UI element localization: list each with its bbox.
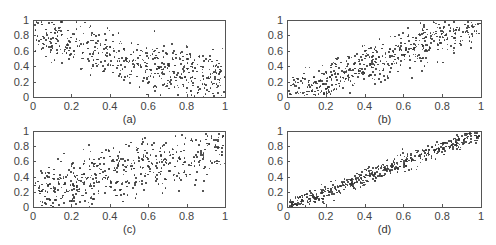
- data-point: [426, 154, 428, 156]
- data-point: [109, 46, 111, 48]
- data-point: [114, 56, 116, 58]
- data-point: [335, 76, 337, 78]
- data-point: [203, 180, 205, 182]
- data-point: [108, 168, 110, 170]
- data-point: [154, 63, 156, 65]
- data-point: [335, 84, 337, 86]
- data-point: [350, 179, 352, 181]
- data-point: [343, 189, 345, 191]
- data-point: [63, 202, 65, 204]
- data-point: [159, 161, 161, 163]
- x-tick-label: 0.8: [172, 210, 202, 222]
- data-point: [479, 23, 481, 25]
- data-point: [302, 92, 304, 94]
- data-point: [392, 50, 394, 52]
- data-point: [75, 193, 77, 195]
- data-point: [129, 60, 131, 62]
- data-point: [397, 171, 399, 173]
- data-point: [326, 72, 328, 74]
- data-point: [382, 44, 384, 46]
- data-point: [113, 50, 115, 52]
- data-point: [153, 142, 155, 144]
- data-point: [322, 198, 324, 200]
- data-point: [120, 189, 122, 191]
- data-point: [125, 144, 127, 146]
- panel-caption: (a): [110, 113, 150, 125]
- data-point: [323, 83, 325, 85]
- data-point: [41, 24, 43, 26]
- data-point: [407, 51, 409, 53]
- data-point: [217, 66, 219, 68]
- data-point: [406, 48, 408, 50]
- data-point: [131, 165, 133, 167]
- x-tick-mark: [481, 94, 482, 97]
- x-tick-mark: [326, 94, 327, 97]
- data-point: [144, 150, 146, 152]
- data-point: [45, 29, 47, 31]
- data-point: [95, 35, 97, 37]
- data-point: [295, 92, 297, 94]
- data-point: [186, 87, 188, 89]
- data-point: [70, 180, 72, 182]
- data-point: [390, 172, 392, 174]
- y-tick-label: 0.4: [3, 171, 29, 183]
- data-point: [210, 160, 212, 162]
- x-tick-mark: [148, 204, 149, 207]
- x-tick-label: 0.8: [172, 100, 202, 112]
- data-point: [168, 170, 170, 172]
- data-point: [91, 203, 93, 205]
- y-tick-label: 0.4: [3, 60, 29, 72]
- data-point: [298, 87, 300, 89]
- data-point: [147, 165, 149, 167]
- data-point: [69, 41, 71, 43]
- data-point: [116, 195, 118, 197]
- data-point: [141, 143, 143, 145]
- data-point: [78, 180, 80, 182]
- data-point: [163, 144, 165, 146]
- data-point: [470, 135, 472, 137]
- data-point: [53, 169, 55, 171]
- data-point: [427, 145, 429, 147]
- data-point: [325, 83, 327, 85]
- data-point: [69, 47, 71, 49]
- data-point: [400, 38, 402, 40]
- data-point: [220, 66, 222, 68]
- data-point: [369, 74, 371, 76]
- y-tick-mark: [33, 82, 36, 83]
- data-point: [445, 142, 447, 144]
- data-point: [307, 86, 309, 88]
- data-point: [161, 161, 163, 163]
- data-point: [191, 162, 193, 164]
- data-point: [391, 169, 393, 171]
- data-point: [172, 52, 174, 54]
- data-point: [374, 83, 376, 85]
- data-point: [129, 82, 131, 84]
- data-point: [452, 148, 454, 150]
- data-point: [448, 24, 450, 26]
- y-tick-mark: [287, 35, 290, 36]
- y-tick-label: 1: [3, 125, 29, 137]
- data-point: [104, 170, 106, 172]
- data-point: [96, 165, 98, 167]
- data-point: [52, 37, 54, 39]
- data-point: [217, 146, 219, 148]
- data-point: [93, 159, 95, 161]
- data-point: [384, 63, 386, 65]
- data-point: [163, 164, 165, 166]
- data-point: [172, 157, 174, 159]
- x-tick-mark: [481, 204, 482, 207]
- data-point: [416, 152, 418, 154]
- data-point: [102, 65, 104, 67]
- data-point: [76, 38, 78, 40]
- y-tick-label: 0.8: [257, 29, 283, 41]
- x-tick-mark: [187, 94, 188, 97]
- data-point: [46, 199, 48, 201]
- x-tick-mark: [287, 204, 288, 207]
- data-point: [195, 179, 197, 181]
- data-point: [186, 54, 188, 56]
- data-point: [90, 25, 92, 27]
- y-tick-label: 1: [257, 14, 283, 26]
- data-point: [105, 47, 107, 49]
- data-point: [121, 57, 123, 59]
- y-tick-mark: [33, 192, 36, 193]
